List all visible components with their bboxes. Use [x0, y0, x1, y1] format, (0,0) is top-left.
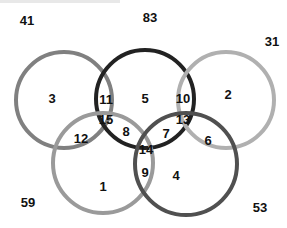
region-count-label: 14	[139, 143, 153, 156]
region-count-label: 1	[99, 180, 106, 193]
venn-circles	[16, 50, 274, 215]
region-count-label: 10	[176, 92, 190, 105]
region-count-label: 6	[204, 134, 211, 147]
region-count-label: 4	[172, 169, 179, 182]
region-count-label: 83	[143, 11, 157, 24]
region-count-label: 5	[141, 92, 148, 105]
region-count-label: 41	[20, 14, 34, 27]
region-count-label: 9	[141, 166, 148, 179]
region-count-label: 59	[21, 196, 35, 209]
region-count-label: 31	[265, 35, 279, 48]
region-count-label: 13	[176, 113, 190, 126]
region-count-label: 7	[162, 127, 169, 140]
region-count-label: 12	[74, 132, 88, 145]
region-count-label: 11	[99, 93, 113, 106]
region-count-label: 2	[224, 88, 231, 101]
region-count-label: 3	[48, 92, 55, 105]
region-count-label: 15	[99, 113, 113, 126]
region-count-label: 8	[122, 125, 129, 138]
region-count-label: 53	[253, 201, 267, 214]
venn-diagram	[0, 0, 287, 228]
